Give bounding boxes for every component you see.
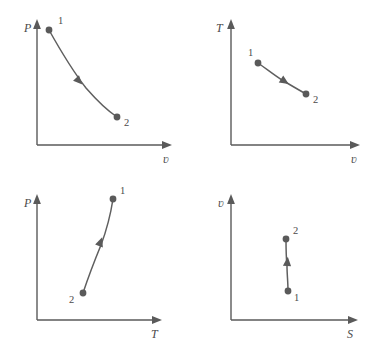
thermodynamic-process-diagram-figure: P ʋ 1 2 T ʋ 1 2 — [0, 0, 378, 349]
x-axis-label-volume: ʋ — [351, 152, 357, 166]
state-point-1 — [285, 288, 292, 295]
panel-pressure-temperature: P T 1 2 — [23, 185, 162, 341]
axes-t-v — [227, 19, 360, 149]
axes-v-s — [227, 194, 358, 324]
state-point-2-label: 2 — [69, 294, 74, 305]
x-axis-label-volume: ʋ — [163, 152, 169, 166]
y-axis-label-pressure: P — [23, 196, 32, 210]
x-axis-arrowhead — [348, 316, 358, 324]
y-axis-arrowhead — [227, 194, 235, 204]
y-axis-label-pressure: P — [23, 21, 32, 35]
state-point-2 — [283, 236, 290, 243]
x-axis-arrowhead — [152, 316, 162, 324]
y-axis-arrowhead — [33, 19, 41, 29]
process-direction-arrowhead — [283, 256, 292, 266]
y-axis-label-temperature: T — [216, 21, 224, 35]
process-path-2-1 — [83, 199, 113, 293]
panel-volume-entropy: ʋ S 1 2 — [218, 194, 358, 341]
process-direction-arrowhead — [279, 76, 291, 88]
state-point-1-label: 1 — [58, 15, 63, 26]
state-point-2-label: 2 — [293, 225, 298, 236]
panel-pressure-volume: P ʋ 1 2 — [23, 15, 172, 166]
state-point-2 — [303, 91, 310, 98]
state-point-1-label: 1 — [294, 292, 299, 303]
state-point-2 — [114, 114, 121, 121]
y-axis-arrowhead — [227, 19, 235, 29]
state-point-2 — [80, 290, 87, 297]
panel-temperature-volume: T ʋ 1 2 — [216, 19, 360, 166]
state-point-1 — [46, 27, 53, 34]
y-axis-label-volume: ʋ — [218, 196, 224, 210]
y-axis-arrowhead — [33, 194, 41, 204]
process-path-1-2 — [49, 30, 117, 117]
x-axis-label-temperature: T — [151, 327, 159, 341]
x-axis-arrowhead — [350, 141, 360, 149]
x-axis-arrowhead — [162, 141, 172, 149]
x-axis-label-entropy: S — [347, 327, 353, 341]
state-point-1 — [110, 196, 117, 203]
state-point-1-label: 1 — [120, 185, 125, 196]
state-point-1 — [255, 60, 262, 67]
state-point-1-label: 1 — [248, 47, 253, 58]
axes-p-t — [33, 194, 162, 324]
state-point-2-label: 2 — [313, 94, 318, 105]
state-point-2-label: 2 — [124, 117, 129, 128]
